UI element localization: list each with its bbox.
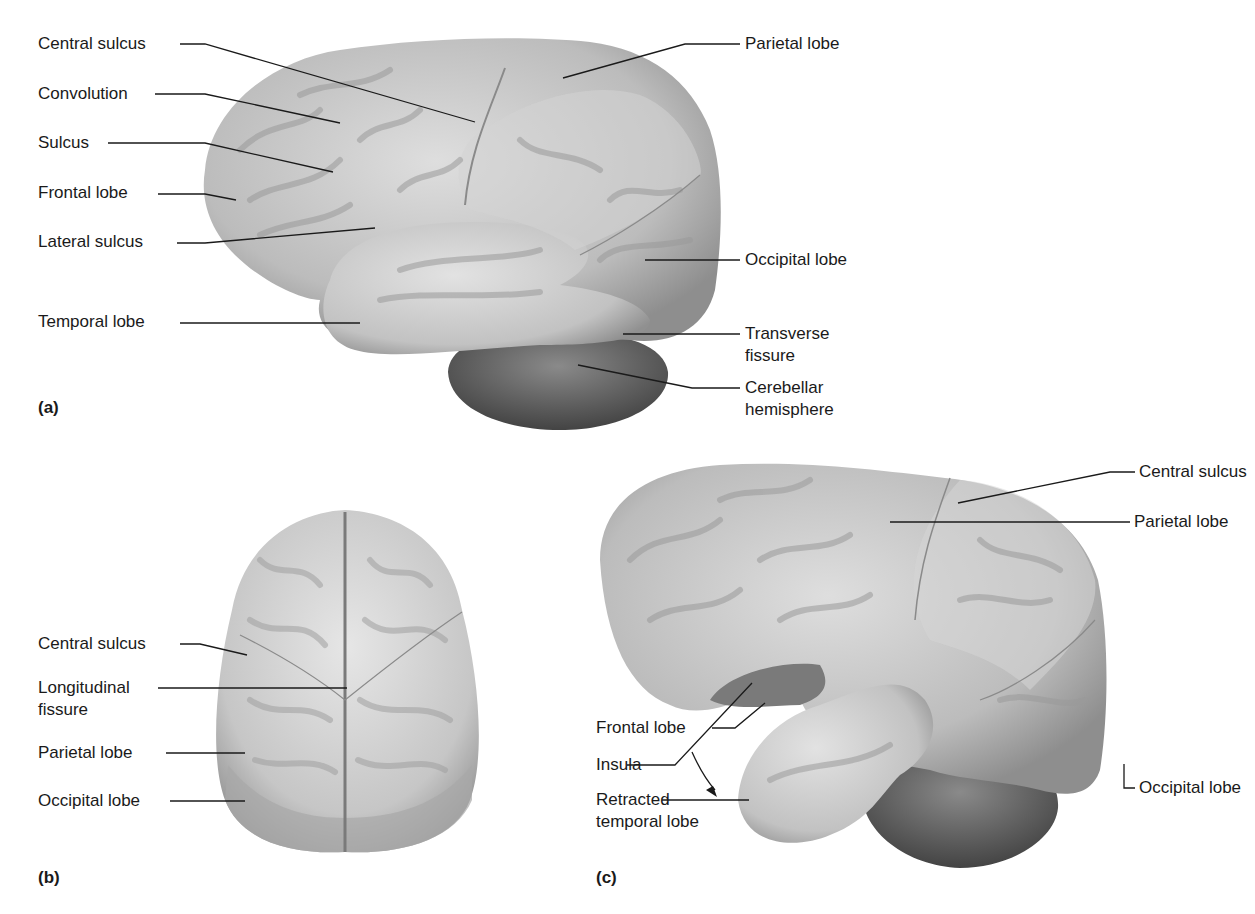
label-a-lateral-sulcus: Lateral sulcus xyxy=(38,232,143,252)
label-c-retracted-temporal-lobe-line2: temporal lobe xyxy=(596,812,699,832)
label-a-temporal-lobe: Temporal lobe xyxy=(38,312,145,332)
panel-letter-a: (a) xyxy=(38,398,59,418)
panel-letter-c: (c) xyxy=(596,868,617,888)
label-b-longitudinal-fissure-line2: fissure xyxy=(38,700,88,720)
label-c-retracted-temporal-lobe-line1: Retracted xyxy=(596,790,670,810)
label-a-parietal-lobe: Parietal lobe xyxy=(745,34,840,54)
label-a-convolution: Convolution xyxy=(38,84,128,104)
label-a-frontal-lobe: Frontal lobe xyxy=(38,183,128,203)
brain-illustration xyxy=(0,0,1255,914)
label-a-central-sulcus: Central sulcus xyxy=(38,34,146,54)
label-a-occipital-lobe: Occipital lobe xyxy=(745,250,847,270)
label-b-occipital-lobe: Occipital lobe xyxy=(38,791,140,811)
label-a-sulcus: Sulcus xyxy=(38,133,89,153)
label-c-insula: Insula xyxy=(596,755,641,775)
panel-a-brain xyxy=(204,38,721,430)
panel-letter-b: (b) xyxy=(38,868,60,888)
label-a-transverse-fissure-line1: Transverse xyxy=(745,324,829,344)
label-b-parietal-lobe: Parietal lobe xyxy=(38,743,133,763)
label-c-parietal-lobe: Parietal lobe xyxy=(1134,512,1229,532)
retraction-arrow-head xyxy=(706,786,717,797)
label-a-cerebellar-hemisphere-line1: Cerebellar xyxy=(745,378,823,398)
label-b-central-sulcus: Central sulcus xyxy=(38,634,146,654)
label-b-longitudinal-fissure-line1: Longitudinal xyxy=(38,678,130,698)
label-c-occipital-lobe: Occipital lobe xyxy=(1139,778,1241,798)
panel-b-brain xyxy=(216,510,479,852)
label-c-frontal-lobe: Frontal lobe xyxy=(596,718,686,738)
label-a-transverse-fissure-line2: fissure xyxy=(745,346,795,366)
panel-c-brain xyxy=(600,464,1107,868)
label-c-central-sulcus: Central sulcus xyxy=(1139,462,1247,482)
label-a-cerebellar-hemisphere-line2: hemisphere xyxy=(745,400,834,420)
